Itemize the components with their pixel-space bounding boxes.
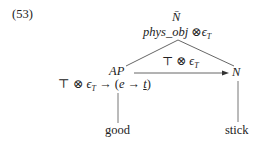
- left-node-type: ⊤ ⊗ ϵT → (e → t): [58, 78, 151, 93]
- leaf-good: good: [105, 124, 130, 137]
- top-icon: ⊤: [162, 54, 173, 68]
- tensor-icon: ⊗: [191, 25, 201, 39]
- root-type: phys_obj ⊗ϵT: [143, 26, 211, 41]
- arrowhead-icon: [222, 71, 229, 76]
- example-number: (53): [12, 8, 33, 21]
- top-icon: ⊤: [58, 77, 70, 91]
- paren-close: ): [147, 77, 151, 91]
- arrow-icon: →: [99, 77, 112, 91]
- tensor-icon: ⊗: [73, 77, 83, 91]
- left-type-eps-sub: T: [92, 84, 96, 93]
- type-e: e: [119, 77, 125, 91]
- tensor-icon: ⊗: [176, 54, 186, 68]
- left-node-category: AP: [109, 65, 124, 78]
- edge-label-eps-sub: T: [194, 61, 198, 70]
- root-type-eps-sub: T: [207, 32, 211, 41]
- edge-label: ⊤ ⊗ ϵT: [162, 55, 199, 70]
- root-category: N̄: [172, 11, 180, 24]
- right-node-category: N: [232, 66, 240, 79]
- leaf-stick: stick: [225, 124, 249, 137]
- root-type-prefix: phys_obj: [143, 25, 188, 39]
- arrow-icon: →: [128, 77, 141, 91]
